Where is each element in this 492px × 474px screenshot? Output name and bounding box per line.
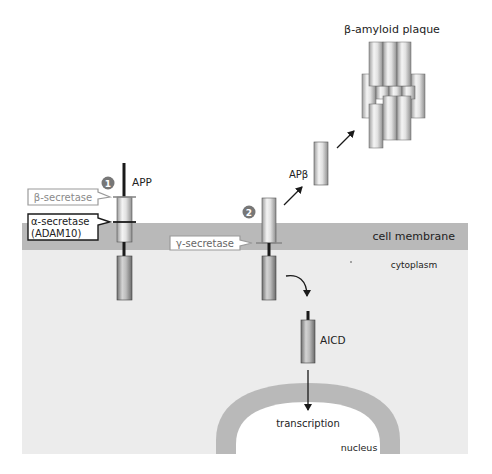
alpha-secretase-callout: α-secretase (ADAM10) (28, 214, 110, 240)
transcription-label: transcription (276, 418, 340, 429)
apb-label: APβ (289, 169, 308, 180)
apb-fragment (314, 142, 328, 185)
app-ectodomain-cylinder (117, 197, 132, 242)
step-2-number: 2 (246, 208, 252, 218)
beta-secretase-callout: β-secretase (28, 189, 110, 205)
app-processing-diagram: cell membrane cytoplasm nucleus APP 1 β-… (0, 0, 492, 474)
speck (350, 261, 352, 263)
step-1-number: 1 (105, 179, 111, 189)
step-2-badge: 2 (243, 206, 256, 219)
aggregation-arrow (337, 131, 354, 148)
beta-secretase-label: β-secretase (34, 192, 92, 203)
adam10-label: (ADAM10) (31, 228, 81, 239)
alpha-secretase-label: α-secretase (31, 216, 90, 227)
release-arrow (284, 187, 302, 205)
plaque-label: β-amyloid plaque (344, 23, 440, 36)
cell-membrane-label: cell membrane (372, 230, 455, 243)
cytoplasm-label: cytoplasm (391, 260, 438, 270)
gamma-secretase-callout: γ-secretase (170, 236, 252, 250)
step-1-badge: 1 (102, 177, 115, 190)
apb-fragment-cylinder (262, 198, 276, 243)
beta-amyloid-plaque (362, 42, 425, 148)
gamma-secretase-label: γ-secretase (176, 238, 234, 249)
protein2-intracellular-cylinder (262, 256, 276, 300)
app-intracellular-cylinder (117, 256, 132, 300)
aicd-label: AICD (320, 334, 346, 346)
app-label: APP (132, 176, 152, 188)
nucleus-label: nucleus (341, 442, 378, 453)
